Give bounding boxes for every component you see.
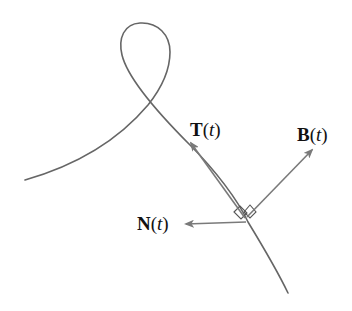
- normal-vector-arrow: [186, 222, 246, 224]
- normal-close-paren: ): [162, 213, 168, 234]
- tangent-vector-arrow: [191, 143, 245, 218]
- binormal-vector-arrow: [247, 150, 312, 217]
- binormal-close-paren: ): [321, 124, 327, 145]
- tangent-symbol: T: [190, 119, 203, 140]
- binormal-symbol: B: [297, 124, 310, 145]
- frenet-frame-diagram: [0, 0, 352, 311]
- binormal-vector-label: B(t): [297, 125, 328, 144]
- tangent-vector-label: T(t): [190, 120, 221, 139]
- normal-symbol: N: [137, 213, 151, 234]
- space-curve: [25, 23, 288, 293]
- normal-vector-label: N(t): [137, 214, 169, 233]
- tangent-close-paren: ): [214, 119, 220, 140]
